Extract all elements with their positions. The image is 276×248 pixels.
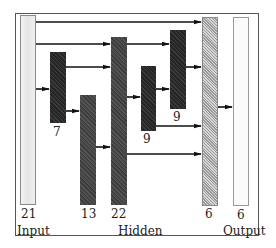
layer-label-input: Input [17,225,50,237]
size-label-hidden-13: 13 [81,208,96,220]
size-label-hidden-9-upper: 9 [173,111,181,123]
size-label-output: 6 [237,209,245,221]
layer-label-output: Output [223,225,266,237]
size-label-hidden-22: 22 [111,208,126,220]
size-label-input: 21 [21,208,36,220]
size-label-hidden-9-lower: 9 [143,133,151,145]
layer-label-hidden: Hidden [118,225,163,237]
size-label-hidden-7: 7 [53,126,61,138]
connection-arrows [0,0,276,248]
size-label-hidden-6: 6 [205,208,213,220]
